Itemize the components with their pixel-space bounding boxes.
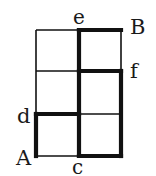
label-A: A — [15, 146, 32, 170]
label-c: c — [72, 155, 83, 176]
label-B: B — [130, 15, 145, 39]
thick-path-segments — [36, 30, 121, 156]
label-f: f — [130, 59, 140, 83]
label-e: e — [73, 5, 85, 29]
label-d: d — [17, 104, 30, 128]
grid-diagram: e B f d A c — [0, 0, 156, 176]
